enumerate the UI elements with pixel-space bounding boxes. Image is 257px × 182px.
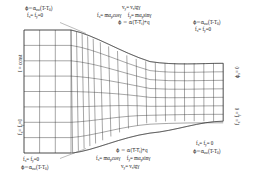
left-fx: f xyxy=(17,133,23,135)
label-right-phi-x: ϕx= 0 xyxy=(234,66,241,78)
top-right-phi-sub2: 0 xyxy=(217,22,219,26)
label-top-center-forces: fx= mαpcosγ fy= mαpsinγ xyxy=(97,12,151,19)
bottom-left-phi-alpha: ϕ=α xyxy=(21,164,32,170)
label-bottom-right-forces: fx= fy= 0 xyxy=(196,140,213,147)
label-bottom-center-velocity: vy= vxtgγ xyxy=(121,163,140,170)
left-fy: = f xyxy=(17,126,23,132)
bottom-left-zero: =0 xyxy=(34,156,39,162)
bottom-left-fy-sub: y xyxy=(32,159,34,163)
bottom-center-fx-expr: = mα xyxy=(99,155,110,161)
mesh-grid xyxy=(24,23,223,159)
bottom-center-fx-expr-sub: p xyxy=(110,158,112,162)
bottom-center-tg: tgγ xyxy=(133,163,139,169)
top-left-phi-rest: (T-T xyxy=(40,5,49,11)
right-fy-sub: y xyxy=(237,114,241,116)
bottom-left-phi-sub: aw xyxy=(32,167,36,171)
bottom-center-fy-sub: y xyxy=(128,158,130,162)
bottom-center-vx: = v xyxy=(125,163,132,169)
label-bottom-left-forces: fx= fy=0 xyxy=(23,156,39,163)
top-left-fy-sub: y xyxy=(36,15,38,19)
label-bottom-center-flux: ϕ = α(T-Tf)+q xyxy=(116,147,147,154)
bottom-center-sin: sinγ xyxy=(142,155,150,161)
top-center-vx: = v xyxy=(126,4,133,10)
mesh-left-block xyxy=(24,30,71,153)
bottom-right-phi-sub2: 0 xyxy=(217,151,219,155)
top-center-fy-sub: y xyxy=(129,15,131,19)
bottom-center-fy-expr: = mα xyxy=(130,155,141,161)
figure-canvas: ϕ=αaw(T-T0) fx= fy=0 vy= vxtgγ fx= mαpco… xyxy=(0,0,257,182)
right-phi: ϕ xyxy=(234,75,240,78)
top-center-phi-rest: )+q xyxy=(142,19,149,25)
label-top-left-forces: fx= fy=0 xyxy=(27,12,43,19)
right-fx: f xyxy=(234,123,240,125)
top-left-zero: =0 xyxy=(38,12,43,18)
top-center-fx-expr: = mα xyxy=(100,12,111,18)
label-left-i-const: I = const xyxy=(17,55,23,72)
top-right-phi-alpha: ϕ=α xyxy=(193,19,204,25)
label-bottom-right-phi: ϕ=αaw(T-T0) xyxy=(193,148,220,155)
bottom-right-phi-rest: (T-T xyxy=(208,148,217,154)
right-phi-zero: = 0 xyxy=(234,66,240,73)
top-center-sin: sinγ xyxy=(143,12,151,18)
bottom-center-phi-rest: )+q xyxy=(140,147,147,153)
left-i-const-text: I = const xyxy=(17,55,23,72)
left-fy-sub: y xyxy=(20,124,24,126)
label-bottom-center-forces: fx= mαpcosγ fy= mαpsinγ xyxy=(96,155,150,162)
bottom-center-cos: cosγ xyxy=(112,155,121,161)
top-center-tg: tgγ xyxy=(134,4,140,10)
label-top-center-flux: ϕ = α(T-Tf)+q xyxy=(118,19,149,26)
mesh-throat-rows xyxy=(71,30,223,153)
right-phi-sub: x xyxy=(237,73,241,75)
top-left-phi-sub2: 0 xyxy=(49,8,51,12)
bottom-right-fy-sub: y xyxy=(205,143,207,147)
top-center-fy-expr: = mα xyxy=(131,12,142,18)
top-left-phi-alpha: ϕ=α xyxy=(25,5,36,11)
mesh-throat-columns xyxy=(71,30,223,153)
bottom-center-phi: ϕ = α(T-T xyxy=(116,147,139,153)
label-bottom-left-phi: ϕ=αaw(T-T0) xyxy=(21,164,48,171)
right-fy: = f xyxy=(234,116,240,122)
bottom-right-zero: = 0 xyxy=(207,140,214,146)
top-center-fx-expr-sub: p xyxy=(111,15,113,19)
bottom-right-phi-alpha: ϕ=α xyxy=(193,148,204,154)
bottom-left-phi-sub2: 0 xyxy=(45,167,47,171)
label-top-center-velocity: vy= vxtgγ xyxy=(122,4,141,11)
top-right-zero: =0 xyxy=(206,26,211,32)
top-center-cos: cosγ xyxy=(113,12,122,18)
bottom-right-phi-sub: aw xyxy=(204,151,208,155)
top-center-vy-sub: y xyxy=(125,7,127,11)
bottom-left-phi-rest: (T-T xyxy=(36,164,45,170)
label-right-forces: fx= fy= 0 xyxy=(234,108,241,125)
top-right-fy-sub: y xyxy=(204,29,206,33)
top-right-phi-rest: (T-T xyxy=(208,19,217,25)
top-center-phi: ϕ = α(T-T xyxy=(118,19,141,25)
label-left-forces: fx= fy=0 xyxy=(17,119,24,135)
label-top-right-forces: fx= fy=0 xyxy=(195,26,211,33)
bottom-center-vy-sub: y xyxy=(124,166,126,170)
